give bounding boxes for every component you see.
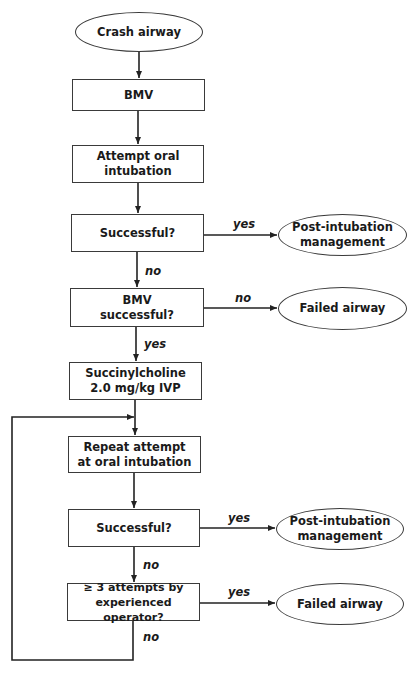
node-text: Succinylcholine 2.0 mg/kg IVP — [85, 366, 185, 396]
node-post-intubation-1: Post-intubation management — [278, 214, 407, 256]
connector-lines — [0, 0, 418, 674]
node-text: ≥ 3 attempts by experienced operator? — [68, 580, 199, 625]
node-attempt-oral-intubation: Attempt oral intubation — [72, 145, 204, 183]
edge-label-attempts3-no: no — [143, 630, 159, 644]
node-successful-2: Successful? — [68, 509, 200, 547]
edge-label-success1-no: no — [145, 264, 161, 278]
node-post-intubation-2: Post-intubation management — [276, 508, 404, 550]
node-text: BMV successful? — [100, 293, 174, 323]
node-failed-airway-1: Failed airway — [278, 287, 407, 330]
node-repeat-attempt: Repeat attempt at oral intubation — [68, 436, 201, 473]
node-text: Crash airway — [97, 25, 181, 40]
node-text: Successful? — [96, 521, 171, 536]
node-text: Post-intubation management — [292, 220, 393, 250]
node-successful-1: Successful? — [71, 214, 204, 252]
edge-label-success1-yes: yes — [233, 217, 255, 231]
node-three-attempts: ≥ 3 attempts by experienced operator? — [67, 583, 200, 621]
node-text: Failed airway — [300, 301, 386, 316]
node-text: Successful? — [100, 226, 175, 241]
node-bmv: BMV — [72, 79, 205, 111]
edge-label-success2-no: no — [143, 558, 159, 572]
edge-label-attempts3-yes: yes — [228, 585, 250, 599]
node-bmv-successful: BMV successful? — [70, 288, 204, 327]
node-text: BMV — [124, 88, 153, 103]
edge-label-success2-yes: yes — [228, 511, 250, 525]
node-failed-airway-2: Failed airway — [276, 583, 404, 625]
node-crash-airway: Crash airway — [75, 12, 203, 52]
flowchart-canvas: Crash airway BMV Attempt oral intubation… — [0, 0, 418, 674]
node-text: Repeat attempt at oral intubation — [78, 440, 192, 470]
edge-label-bmv-success-no: no — [235, 291, 251, 305]
node-text: Attempt oral intubation — [97, 149, 180, 179]
node-text: Failed airway — [297, 597, 383, 612]
edge-label-bmv-success-yes: yes — [144, 337, 166, 351]
node-succinylcholine: Succinylcholine 2.0 mg/kg IVP — [69, 362, 202, 400]
node-text: Post-intubation management — [290, 514, 391, 544]
